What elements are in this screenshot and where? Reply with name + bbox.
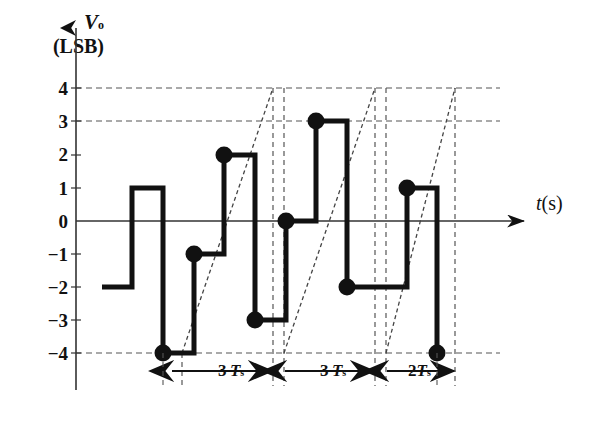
sample-point: [278, 213, 295, 230]
waveform-figure: Vo (LSB) 4 3 2 1 0 −1 −2 −3 −4 t(s) 3 Ts…: [0, 0, 601, 429]
plot-canvas: [0, 0, 601, 429]
sample-point: [308, 113, 325, 130]
sample-point: [339, 279, 356, 296]
sample-points: [155, 113, 446, 362]
sample-point: [216, 147, 233, 164]
sample-point: [399, 180, 416, 197]
staircase-output-waveform: [102, 121, 437, 353]
sample-point: [186, 246, 203, 263]
sample-point: [247, 312, 264, 329]
boundary-extensions: [163, 353, 437, 386]
